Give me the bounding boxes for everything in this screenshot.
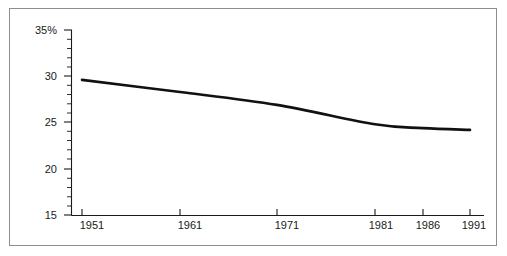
y-axis-tick-labels: 35% 30 25 20 15 (35, 24, 57, 221)
y-tick-label-25: 25 (45, 116, 57, 128)
x-tick-label-1951: 1951 (80, 219, 104, 231)
x-axis-tick-labels: 1951 1961 1971 1981 1986 1991 (80, 219, 486, 231)
x-tick-label-1991: 1991 (462, 219, 486, 231)
x-tick-label-1986: 1986 (416, 219, 440, 231)
y-tick-label-35: 35% (35, 24, 57, 36)
y-tick-label-30: 30 (45, 70, 57, 82)
line-chart: 35% 30 25 20 15 (0, 0, 507, 256)
x-axis-ticks (82, 209, 470, 215)
x-tick-label-1961: 1961 (178, 219, 202, 231)
x-tick-label-1981: 1981 (369, 219, 393, 231)
y-tick-label-20: 20 (45, 163, 57, 175)
x-tick-label-1971: 1971 (275, 219, 299, 231)
y-tick-label-15: 15 (45, 209, 57, 221)
chart-figure: 35% 30 25 20 15 (0, 0, 507, 256)
data-line-percentage (82, 80, 470, 130)
